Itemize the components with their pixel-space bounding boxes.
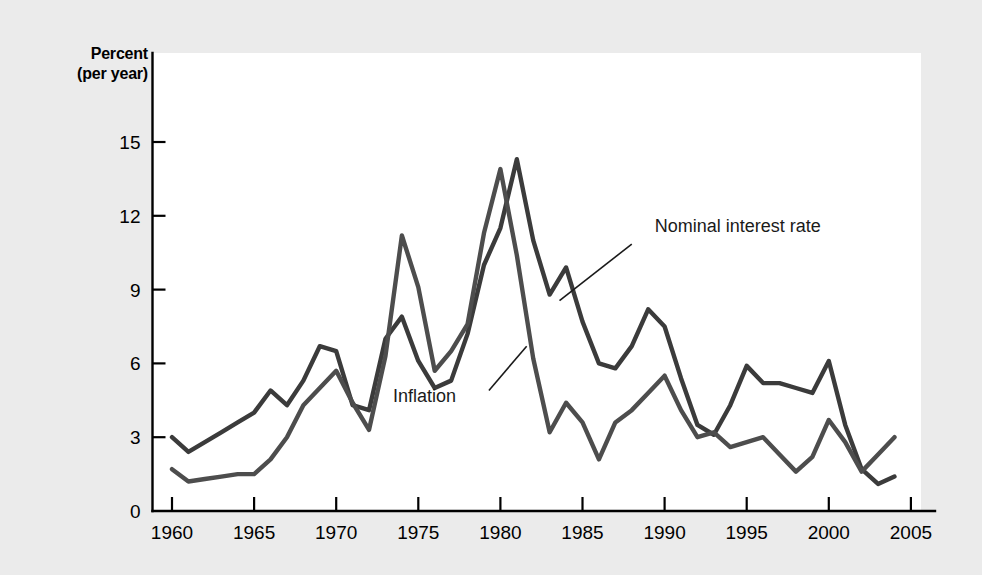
x-tick-label: 1980 [479,522,521,543]
y-tick-labels: 03691215 [119,132,140,522]
x-tick-label: 1990 [643,522,685,543]
x-tick-label: 1970 [315,522,357,543]
y-tick-label: 9 [130,280,141,301]
x-tick-label: 1965 [233,522,275,543]
y-tick-label: 6 [130,353,141,374]
annotation-leader-line [489,346,527,390]
x-tick-label: 1985 [561,522,603,543]
y-tick-label: 3 [130,427,141,448]
figure-container: Percent (per year) 03691215 196019651970… [0,0,982,575]
series-line-nominal-interest-rate [172,159,894,484]
tick-marks [153,142,911,511]
x-tick-label: 2000 [808,522,850,543]
annotation-label: Inflation [393,386,456,406]
x-tick-label: 1995 [726,522,768,543]
line-chart: 03691215 1960196519701975198019851990199… [0,0,982,575]
x-tick-label: 1975 [397,522,439,543]
x-tick-label: 2005 [890,522,932,543]
y-tick-label: 15 [119,132,140,153]
y-tick-label: 12 [119,206,140,227]
annotation-leader-line [560,244,632,301]
x-tick-label: 1960 [151,522,193,543]
data-series [172,159,894,484]
y-tick-label: 0 [130,501,141,522]
annotation-label: Nominal interest rate [655,216,821,236]
x-tick-labels: 1960196519701975198019851990199520002005 [151,522,932,543]
